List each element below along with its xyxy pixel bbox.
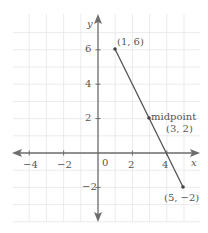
x-axis-label: x bbox=[191, 157, 197, 168]
point-b-label: (5, −2) bbox=[164, 192, 199, 203]
x-axis bbox=[12, 149, 200, 157]
tick-label-y-2: 2 bbox=[85, 112, 91, 123]
tick-label-x-4: 4 bbox=[162, 159, 168, 170]
midpoint-word-label: midpoint bbox=[151, 111, 196, 122]
tick-label-x-2: 2 bbox=[128, 159, 134, 170]
midpoint-coord-label: (3, 2) bbox=[166, 123, 193, 134]
tick-label-x-neg4: −4 bbox=[23, 159, 38, 170]
tick-label-y-6: 6 bbox=[85, 43, 91, 54]
tick-label-y-4: 4 bbox=[85, 78, 91, 89]
point-endpoint-b bbox=[181, 185, 185, 189]
point-endpoint-a bbox=[113, 47, 117, 51]
coordinate-plane: x y 0 −4 −2 2 4 6 4 2 −2 (1, 6) midpoint… bbox=[0, 0, 208, 233]
tick-label-y-neg2: −2 bbox=[82, 181, 97, 192]
tick-label-x-neg2: −2 bbox=[57, 159, 72, 170]
point-a-label: (1, 6) bbox=[117, 36, 144, 47]
y-axis-label: y bbox=[86, 18, 93, 29]
origin-label: 0 bbox=[102, 157, 108, 168]
